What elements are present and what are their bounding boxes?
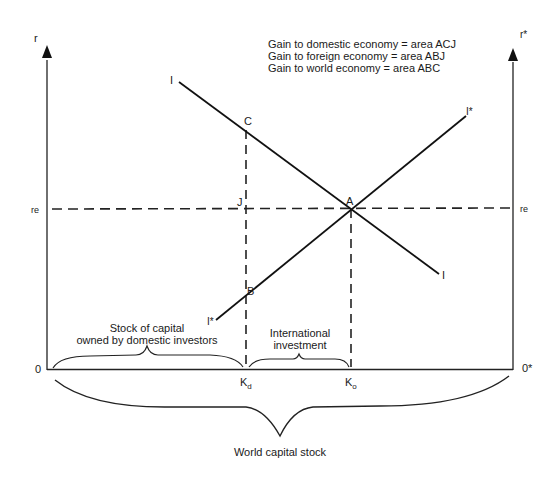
right-axis-arrow-icon	[508, 48, 518, 61]
point-c-label: C	[244, 115, 252, 127]
legend-world-gain: Gain to world economy = area ABC	[268, 62, 456, 74]
international-line2: investment	[262, 339, 338, 351]
legend-domestic-gain: Gain to domestic economy = area ACJ	[268, 38, 456, 50]
world-capital-brace	[55, 376, 509, 436]
equilibrium-rate-line	[52, 208, 512, 209]
domestic-curve-label-bottom: I	[442, 269, 445, 281]
ko-sub: o	[352, 382, 356, 391]
right-re-label: re	[520, 203, 528, 215]
foreign-curve-label-top: I*	[466, 106, 473, 118]
international-investment-label: International investment	[262, 327, 338, 351]
left-axis-arrow-icon	[42, 45, 52, 58]
right-origin-label: 0*	[522, 362, 532, 374]
point-j-label: J	[237, 196, 243, 208]
kd-sub: d	[247, 382, 251, 391]
international-investment-brace	[249, 354, 349, 367]
domestic-stock-brace	[53, 346, 243, 368]
left-re-label: re	[31, 204, 39, 216]
international-line1: International	[262, 327, 338, 339]
legend-foreign-gain: Gain to foreign economy = area ABJ	[268, 50, 456, 62]
domestic-stock-line1: Stock of capital	[72, 322, 222, 334]
right-axis-label: r*	[520, 29, 527, 41]
left-axis-label: r	[34, 32, 38, 44]
point-a-label: A	[346, 195, 353, 207]
point-b-label: B	[247, 285, 254, 297]
gains-legend: Gain to domestic economy = area ACJ Gain…	[268, 38, 456, 74]
ko-tick-label: Ko	[345, 376, 357, 393]
domestic-stock-label: Stock of capital owned by domestic inves…	[72, 322, 222, 346]
world-capital-label: World capital stock	[220, 446, 340, 458]
domestic-curve-label-top: I	[170, 74, 173, 86]
domestic-stock-line2: owned by domestic investors	[72, 334, 222, 346]
left-origin-label: 0	[35, 363, 41, 375]
kd-tick-label: Kd	[240, 376, 252, 393]
